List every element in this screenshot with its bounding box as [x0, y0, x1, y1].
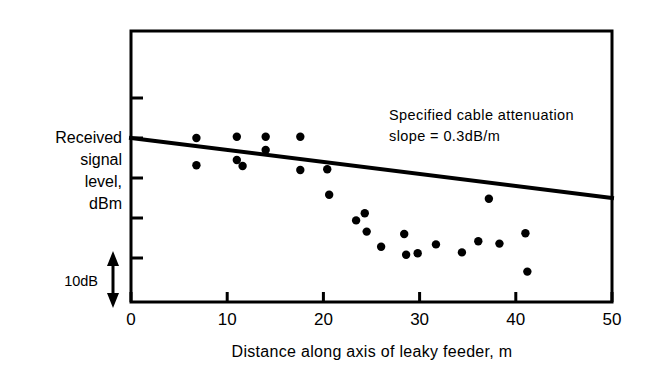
x-axis-tick-label: 30: [410, 310, 429, 329]
data-point: [325, 191, 333, 199]
x-axis-tick-label: 50: [603, 310, 622, 329]
data-point: [432, 240, 440, 248]
data-point: [296, 166, 304, 174]
x-axis-tick-label: 20: [314, 310, 333, 329]
data-point: [521, 229, 529, 237]
data-point: [485, 195, 493, 203]
data-point: [192, 134, 200, 142]
data-point: [523, 267, 531, 275]
data-point: [261, 133, 269, 141]
scatter-plot-svg: 01020304050 Received signal level, dBm 1…: [0, 0, 659, 372]
y-axis-label-line-2: signal: [80, 151, 122, 168]
data-point: [362, 227, 370, 235]
y-axis-label-line-1: Received: [55, 129, 122, 146]
data-point: [233, 133, 241, 141]
data-point: [323, 165, 331, 173]
data-point: [377, 243, 385, 251]
annotation-line-2: slope = 0.3dB/m: [389, 128, 500, 144]
data-point: [400, 230, 408, 238]
scalebar-label: 10dB: [64, 273, 98, 289]
y-axis-label-line-4: dBm: [89, 195, 122, 212]
x-axis-tick-label: 40: [506, 310, 525, 329]
x-axis-tick-label: 10: [218, 310, 237, 329]
data-point: [238, 162, 246, 170]
annotation-line-1: Specified cable attenuation: [389, 107, 574, 123]
data-point: [192, 161, 200, 169]
x-axis-title: Distance along axis of leaky feeder, m: [232, 343, 513, 360]
y-axis-label-line-3: level,: [85, 173, 122, 190]
data-point: [402, 251, 410, 259]
data-point: [352, 216, 360, 224]
data-point: [413, 249, 421, 257]
data-point: [296, 133, 304, 141]
data-point: [458, 248, 466, 256]
data-point: [474, 237, 482, 245]
data-point: [361, 209, 369, 217]
x-axis-tick-label: 0: [126, 310, 135, 329]
chart-figure: 01020304050 Received signal level, dBm 1…: [0, 0, 659, 372]
data-point: [495, 239, 503, 247]
